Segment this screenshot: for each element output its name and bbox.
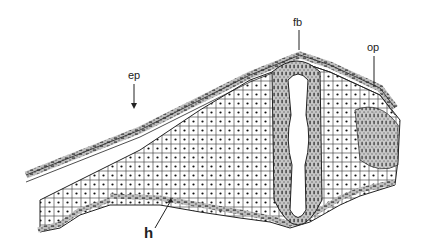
label-op: op (367, 42, 379, 53)
label-fb: fb (293, 17, 302, 28)
label-h: h (144, 225, 153, 240)
label-ep: ep (128, 70, 140, 81)
fold-lumen (288, 74, 309, 218)
tissue-diagram (0, 0, 423, 251)
